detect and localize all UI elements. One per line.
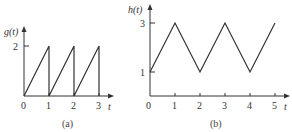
x-label-b: t (284, 101, 287, 112)
x-axis-arrow-icon (108, 94, 114, 99)
x-tick-5-b: 5 (272, 100, 277, 111)
y-tick-3: 3 (140, 18, 145, 29)
caption-b: (b) (210, 118, 222, 130)
y-label-b: h(t) (128, 4, 143, 16)
y-tick-2: 2 (13, 41, 18, 52)
x-tick-4-b: 4 (247, 100, 252, 111)
x-tick-1-b: 1 (172, 100, 177, 111)
x-tick-3-a: 3 (96, 100, 101, 111)
g-t-curve (24, 46, 99, 96)
x-tick-0-a: 0 (21, 100, 26, 111)
panel-a: g(t) 2 0 1 2 3 t (a) (4, 26, 114, 130)
x-tick-3-b: 3 (222, 100, 227, 111)
y-tick-1: 1 (140, 67, 145, 78)
panel-b: h(t) 3 1 0 1 2 3 4 5 t (b) (128, 4, 290, 130)
figure: g(t) 2 0 1 2 3 t (a) h(t) 3 1 0 1 2 3 4 … (0, 0, 292, 132)
x-tick-1-a: 1 (46, 100, 51, 111)
x-label-a: t (108, 101, 111, 112)
y-axis-arrow-icon (22, 26, 27, 32)
y-label-a: g(t) (4, 26, 19, 38)
x-tick-2-a: 2 (71, 100, 76, 111)
y-axis-arrow-icon (148, 4, 153, 10)
x-axis-arrow-icon (284, 94, 290, 99)
x-tick-0-b: 0 (146, 100, 151, 111)
h-t-curve (150, 23, 275, 72)
x-tick-2-b: 2 (197, 100, 202, 111)
caption-a: (a) (62, 118, 73, 130)
